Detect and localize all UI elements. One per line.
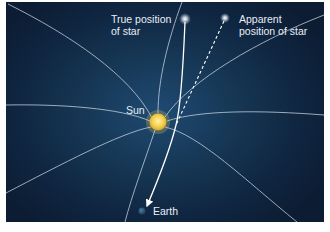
true-star-label-line1: True position (111, 13, 171, 25)
earth-label: Earth (153, 205, 178, 217)
apparent-star-label-line2: position of star (239, 25, 307, 37)
true-star-label-line2: of star (111, 25, 171, 37)
apparent-star (220, 13, 230, 23)
apparent-star-label-line1: Apparent (239, 13, 307, 25)
light-ray-apparent (176, 21, 224, 125)
sun-label: Sun (126, 104, 145, 116)
sun (146, 110, 170, 134)
diagram-panel: True position of star Apparent position … (6, 2, 324, 222)
apparent-star-label: Apparent position of star (239, 13, 307, 37)
earth (139, 208, 146, 215)
true-star-label: True position of star (111, 13, 171, 37)
